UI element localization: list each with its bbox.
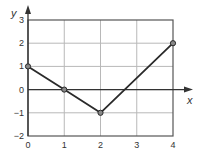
data-point-marker (170, 41, 175, 46)
y-tick-label: 3 (19, 15, 24, 25)
axes (25, 5, 193, 136)
x-tick-label: 1 (62, 140, 67, 150)
data-point-marker (62, 87, 67, 92)
y-axis-arrow-icon (25, 5, 31, 14)
y-tick-label: −2 (14, 131, 24, 141)
y-tick-label: 0 (19, 85, 24, 95)
x-axis-label: x (186, 94, 193, 106)
x-tick-label: 0 (25, 140, 30, 150)
data-point-marker (25, 64, 30, 69)
x-tick-label: 4 (170, 140, 175, 150)
grid (28, 20, 173, 136)
x-tick-label: 3 (134, 140, 139, 150)
y-axis-label: y (10, 7, 18, 19)
x-tick-label: 2 (98, 140, 103, 150)
y-tick-label: −1 (14, 108, 24, 118)
y-tick-label: 2 (19, 38, 24, 48)
x-axis-arrow-icon (184, 87, 193, 93)
data-point-marker (98, 110, 103, 115)
y-tick-label: 1 (19, 61, 24, 71)
tick-labels: 012343210−1−2 (14, 15, 176, 150)
line-chart: 012343210−1−2 y x (0, 0, 203, 154)
